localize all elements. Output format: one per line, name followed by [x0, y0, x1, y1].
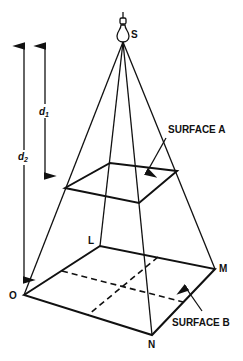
source-label: S: [131, 29, 138, 40]
d1-label: d1: [39, 106, 49, 118]
surface-b-divider-1: [62, 271, 183, 302]
vertex-m-label: M: [219, 263, 227, 274]
d2-label: d2: [18, 151, 28, 163]
pyramid-edges: [24, 42, 215, 335]
surface-a-label: SURFACE A: [168, 124, 225, 135]
pyramid-diagram: d1 d2 S SURFACE A SURFACE B O L M N: [0, 0, 243, 361]
surface-b-label: SURFACE B: [172, 317, 230, 328]
light-bulb-icon: [117, 12, 129, 42]
surface-a-pointer: [147, 138, 166, 172]
surface-a: [65, 163, 177, 203]
vertex-o-label: O: [9, 290, 17, 301]
vertex-n-label: N: [148, 339, 155, 350]
vertex-l-label: L: [88, 235, 94, 246]
